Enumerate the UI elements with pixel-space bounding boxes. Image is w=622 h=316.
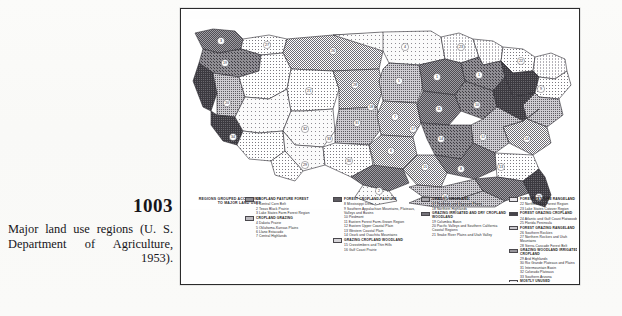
svg-text:18: 18: [369, 105, 373, 109]
legend-swatch: [509, 249, 518, 254]
legend-item-label: 2 Texas Black Prairie: [256, 207, 289, 211]
legend-item-label: 18 Northern Highlands: [432, 207, 467, 211]
legend-group-label: GRAZING IRRIGATED AND DRY CROPLAND WOODL…: [432, 211, 509, 219]
legend-item-label: 28 Sierra-Cascade Forest Belt: [520, 244, 567, 248]
legend-item-label: 4 Dakota Prairie: [256, 221, 281, 225]
svg-text:30: 30: [347, 159, 351, 163]
legend-group-label: GRAZING WOODLAND IRRIGATED CROPLAND: [520, 248, 577, 256]
legend-item-label: 17 Redbeds and Gypsum Plains: [432, 202, 482, 206]
svg-text:34: 34: [231, 135, 235, 139]
legend-item: 19 Columbia Basin: [421, 220, 509, 224]
legend-item: 12 Eastern Upper Coastal Plain: [333, 224, 421, 228]
legend-item: 23 Lake States Cutover Region: [509, 207, 577, 211]
svg-text:20: 20: [225, 101, 229, 105]
legend-group-header-row: FOREST GRAZING CROPLAND: [509, 211, 577, 216]
svg-text:7: 7: [394, 115, 396, 119]
svg-text:1: 1: [436, 75, 438, 79]
svg-text:1: 1: [478, 73, 480, 77]
legend-item: 4 Dakota Prairie: [245, 221, 331, 225]
legend-group-label: CROPLAND PASTURE FOREST: [256, 197, 309, 201]
legend-column-1: CROPLAND PASTURE FOREST1 Central Corn Be…: [245, 197, 331, 239]
svg-text:19: 19: [223, 61, 227, 65]
legend-item-label: 10 Piedmont: [344, 215, 364, 219]
legend-item: 32 Colorado Plateaus: [509, 270, 577, 274]
legend-item: 27 Northern Rockies and Utah Mountains: [509, 235, 577, 243]
legend-group-label: GRAZING CROPLAND: [432, 197, 469, 201]
legend-item-label: 27 Northern Rockies and Utah Mountains: [520, 235, 577, 243]
us-land-use-map: 3 27 26 4 23 22 19 28 5 1 1 20 21 31: [183, 19, 577, 209]
legend-group-header-row: GRAZING WOODLAND IRRIGATED CROPLAND: [509, 248, 577, 256]
svg-text:22: 22: [519, 59, 523, 63]
svg-text:29: 29: [303, 163, 307, 167]
legend-column-2: FOREST CROPLAND PASTURE8 Mississippi Del…: [333, 197, 421, 252]
legend-item-label: 19 Columbia Basin: [432, 220, 461, 224]
legend-column-3: GRAZING CROPLAND17 Redbeds and Gypsum Pl…: [421, 197, 509, 237]
legend-item: 31 Intermountain Basin: [509, 266, 577, 270]
svg-text:28: 28: [353, 83, 357, 87]
legend-item-label: 6 Llano Estacado: [256, 230, 283, 234]
legend-swatch: [333, 197, 342, 202]
legend-item: 13 Western Coastal Plain: [333, 229, 421, 233]
svg-text:15: 15: [423, 165, 427, 169]
legend-group-header-row: CROPLAND PASTURE FOREST: [245, 197, 331, 202]
svg-text:26: 26: [331, 49, 335, 53]
legend-item-label: 23 Lake States Cutover Region: [520, 207, 569, 211]
legend-item-label: 26 Southern Rockies: [520, 231, 553, 235]
legend-group-header-row: FOREST CROPLAND PASTURE: [333, 197, 421, 202]
legend-item: 6 Llano Estacado: [245, 230, 331, 234]
legend-item-label: 29 Arid Highlands: [520, 257, 548, 261]
svg-text:32: 32: [303, 127, 307, 131]
legend-item: 1 Central Corn Belt: [245, 202, 331, 206]
svg-text:5: 5: [398, 79, 400, 83]
legend-item: 2 Texas Black Prairie: [245, 207, 331, 211]
legend-item-label: 22 Northeastern Forest Region: [520, 202, 568, 206]
map-frame: MAJOR LAND USE REGIONS: [180, 8, 580, 285]
legend-item: 10 Piedmont: [333, 215, 421, 219]
svg-text:2: 2: [378, 189, 380, 193]
legend-item: 29 Arid Highlands: [509, 257, 577, 261]
svg-text:24: 24: [525, 137, 529, 141]
svg-text:11: 11: [437, 107, 441, 111]
legend-group-label: FOREST CROPLAND PASTURE: [344, 197, 397, 201]
legend-item-label: 30 Rio Grande Plateaus and Plains: [520, 261, 575, 265]
legend-item-label: 24 Atlantic and Gulf Coast Flatwoods: [520, 217, 577, 221]
svg-text:33: 33: [327, 137, 331, 141]
legend-group-label: CROPLAND GRAZING: [256, 216, 293, 220]
svg-text:23: 23: [459, 45, 463, 49]
legend-item: 26 Southern Rockies: [509, 231, 577, 235]
legend-item-label: 20 Pacific Valleys and Southern Californ…: [432, 224, 509, 232]
legend-item-label: 16 Gulf Coast Prairie: [344, 248, 377, 252]
legend-item: 22 Northeastern Forest Region: [509, 202, 577, 206]
legend-item: 14 Ozark and Ouachita Mountains: [333, 233, 421, 237]
legend-item: 5 Oklahoma-Kansas Plains: [245, 226, 331, 230]
legend-item-label: 11 Eastern Forest Farm-Grown Region: [344, 220, 404, 224]
legend-group-label: FOREST GRAZING CROPLAND: [520, 211, 572, 215]
legend-item-label: 5 Oklahoma-Kansas Plains: [256, 226, 298, 230]
legend-item: 7 Central Highlands: [245, 234, 331, 238]
legend-item: 20 Pacific Valleys and Southern Californ…: [421, 224, 509, 232]
svg-text:21: 21: [307, 89, 311, 93]
legend-item: 8 Mississippi Delta: [333, 202, 421, 206]
legend-item: 24 Atlantic and Gulf Coast Flatwoods: [509, 217, 577, 221]
legend-item-label: 15 Crosstimbers and Thin Hills: [344, 243, 392, 247]
figure-number: 1003: [8, 196, 173, 216]
legend-group-header-row: GRAZING CROPLAND: [421, 197, 509, 202]
svg-text:14: 14: [439, 137, 443, 141]
map-frame-inner: MAJOR LAND USE REGIONS: [183, 11, 577, 282]
svg-text:17: 17: [411, 127, 415, 131]
legend-swatch: [333, 238, 342, 243]
figure-caption-text: Major land use regions (U. S. Department…: [8, 222, 173, 266]
svg-text:12: 12: [481, 135, 485, 139]
legend-item: 11 Eastern Forest Farm-Grown Region: [333, 220, 421, 224]
legend-group-header-row: MOSTLY UNUSED: [509, 279, 577, 282]
legend-swatch: [421, 197, 430, 202]
legend-item-label: 8 Mississippi Delta: [344, 202, 373, 206]
svg-text:3: 3: [220, 39, 222, 43]
legend-item: 17 Redbeds and Gypsum Plains: [421, 202, 509, 206]
svg-text:4: 4: [404, 45, 406, 49]
legend-item: 33 Southern Arizona: [509, 275, 577, 279]
legend-swatch: [421, 212, 430, 217]
legend-group-label: GRAZING CROPLAND WOODLAND: [344, 238, 403, 242]
legend-swatch: [509, 212, 518, 217]
legend-item-label: 7 Central Highlands: [256, 234, 287, 238]
